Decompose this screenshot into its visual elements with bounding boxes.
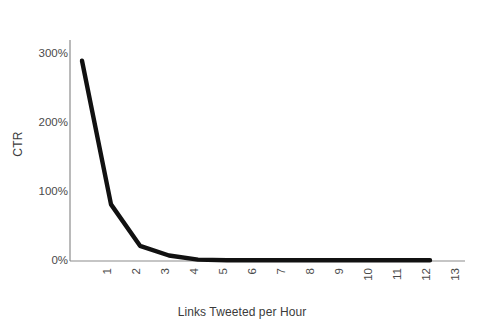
chart-container: CTR 0%100%200%300% 12345678910111213 Lin…	[0, 0, 484, 333]
x-axis-tick-label: 1	[102, 268, 114, 308]
x-axis-tick-label: 11	[392, 268, 404, 308]
x-axis-tick-label: 13	[450, 268, 462, 308]
x-axis-tick-label: 12	[421, 268, 433, 308]
plot-area	[0, 0, 484, 333]
x-axis-tick-label: 3	[160, 268, 172, 308]
x-axis-tick-label: 5	[218, 268, 230, 308]
x-axis-tick-label: 9	[334, 268, 346, 308]
x-axis-tick-label: 4	[189, 268, 201, 308]
ctr-data-line	[82, 61, 430, 261]
x-axis-tick-label: 7	[276, 268, 288, 308]
x-axis-title: Links Tweeted per Hour	[0, 305, 484, 319]
x-axis-tick-label: 6	[247, 268, 259, 308]
x-axis-tick-label: 8	[305, 268, 317, 308]
x-axis-tick-label: 2	[131, 268, 143, 308]
x-axis-tick-label: 10	[363, 268, 375, 308]
